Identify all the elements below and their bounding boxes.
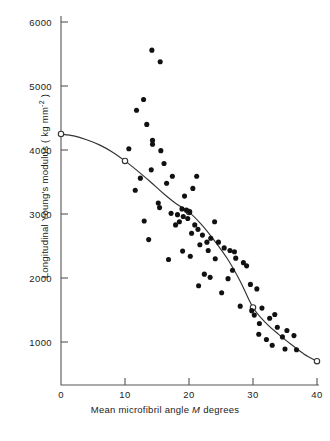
data-point	[150, 138, 155, 143]
x-axis-ticks: 010203040	[58, 378, 323, 400]
data-point	[138, 176, 143, 181]
data-point	[213, 256, 218, 261]
data-point	[195, 227, 200, 232]
y-axis-label-text: Longitudinal Young's modulus ( kg mm	[39, 107, 50, 278]
data-point	[294, 347, 299, 352]
data-point	[158, 59, 163, 64]
data-point	[204, 240, 209, 245]
data-point	[180, 249, 185, 254]
data-point	[232, 249, 237, 254]
data-point	[267, 316, 272, 321]
data-point	[270, 343, 275, 348]
data-point	[202, 272, 207, 277]
data-point	[197, 242, 202, 247]
plot-axes	[61, 16, 319, 385]
data-point	[188, 254, 193, 259]
data-point	[126, 146, 131, 151]
data-point	[161, 161, 166, 166]
data-point	[175, 212, 180, 217]
chart-figure: 100020003000400050006000 010203040 Longi…	[0, 0, 330, 441]
data-point	[216, 240, 221, 245]
data-point	[272, 312, 277, 317]
data-point	[146, 237, 151, 242]
data-point	[225, 276, 230, 281]
data-point	[233, 256, 238, 261]
data-point	[179, 206, 184, 211]
data-point	[230, 268, 235, 273]
data-point	[219, 290, 224, 295]
y-tick-label: 1000	[29, 337, 52, 348]
data-point	[164, 181, 169, 186]
data-point	[291, 333, 296, 338]
scatter-points	[126, 48, 299, 353]
data-point	[264, 337, 269, 342]
data-point	[189, 231, 194, 236]
data-point	[244, 263, 249, 268]
x-tick-label: 30	[247, 389, 258, 400]
data-point	[157, 205, 162, 210]
data-point	[133, 188, 138, 193]
data-point	[182, 194, 187, 199]
y-axis-label-tail: )	[39, 94, 50, 100]
data-point	[238, 304, 243, 309]
data-point	[208, 275, 213, 280]
x-tick-label: 10	[119, 389, 130, 400]
data-point	[280, 334, 285, 339]
data-point	[257, 321, 262, 326]
data-point	[259, 306, 264, 311]
data-point	[169, 211, 174, 216]
curve-node-marker	[122, 158, 127, 163]
x-tick-label: 40	[311, 389, 322, 400]
data-point	[252, 313, 257, 318]
data-point	[256, 332, 261, 337]
data-point	[196, 283, 201, 288]
data-point	[156, 201, 161, 206]
data-point	[170, 174, 175, 179]
data-point	[173, 222, 178, 227]
data-point	[208, 236, 213, 241]
data-point	[142, 218, 147, 223]
data-point	[185, 216, 190, 221]
x-axis-label-suffix: degrees	[200, 404, 239, 415]
data-point	[248, 282, 253, 287]
data-point	[190, 186, 195, 191]
data-point	[149, 48, 154, 53]
data-point	[187, 210, 192, 215]
data-point	[194, 174, 199, 179]
data-point	[275, 325, 280, 330]
data-point	[284, 328, 289, 333]
data-point	[141, 97, 146, 102]
data-point	[144, 122, 149, 127]
data-point	[282, 346, 287, 351]
fitted-curve-nodes	[58, 131, 319, 364]
data-point	[249, 308, 254, 313]
data-point	[212, 219, 217, 224]
data-point	[222, 245, 227, 250]
y-tick-label: 6000	[29, 17, 52, 28]
data-point	[158, 148, 163, 153]
curve-node-marker	[58, 131, 63, 136]
data-point	[134, 108, 139, 113]
x-axis-label: Mean microfibril angle M degrees	[0, 404, 330, 415]
data-point	[227, 248, 232, 253]
x-tick-label: 0	[58, 389, 64, 400]
data-point	[254, 286, 259, 291]
x-axis-label-prefix: Mean microfibril angle	[91, 404, 192, 415]
data-point	[200, 233, 205, 238]
data-point	[166, 257, 171, 262]
x-tick-label: 20	[183, 389, 194, 400]
y-axis-label: Longitudinal Young's modulus ( kg mm-2 )	[38, 56, 50, 316]
data-point	[149, 167, 154, 172]
y-axis-label-exponent: -2	[38, 100, 45, 107]
data-point	[181, 214, 186, 219]
data-point	[192, 222, 197, 227]
curve-node-marker	[314, 359, 319, 364]
data-point	[206, 248, 211, 253]
